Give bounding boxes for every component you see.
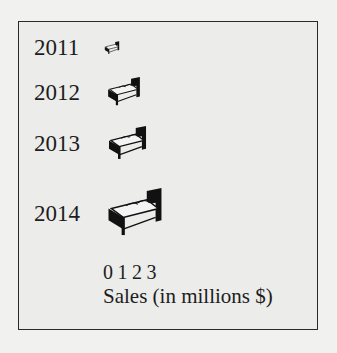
row-2011: 2011 (34, 36, 120, 59)
bed-icon (104, 77, 144, 107)
x-tick: 2 (132, 261, 143, 283)
row-2014: 2014 (34, 188, 166, 238)
chart-frame: 2011 2012 2013 201 (18, 21, 318, 330)
x-axis-label: Sales (in millions $) (103, 286, 273, 307)
bed-icon (104, 126, 151, 161)
year-label: 2012 (34, 81, 104, 104)
year-label: 2011 (34, 36, 104, 59)
row-2012: 2012 (34, 77, 144, 107)
x-tick: 1 (118, 261, 129, 283)
bed-icon (104, 41, 120, 55)
x-axis-ticks: 0123 (103, 262, 161, 282)
row-2013: 2013 (34, 126, 151, 161)
bed-icon (104, 188, 166, 238)
year-label: 2014 (34, 202, 104, 225)
x-tick: 3 (147, 261, 158, 283)
x-tick: 0 (103, 261, 114, 283)
year-label: 2013 (34, 132, 104, 155)
